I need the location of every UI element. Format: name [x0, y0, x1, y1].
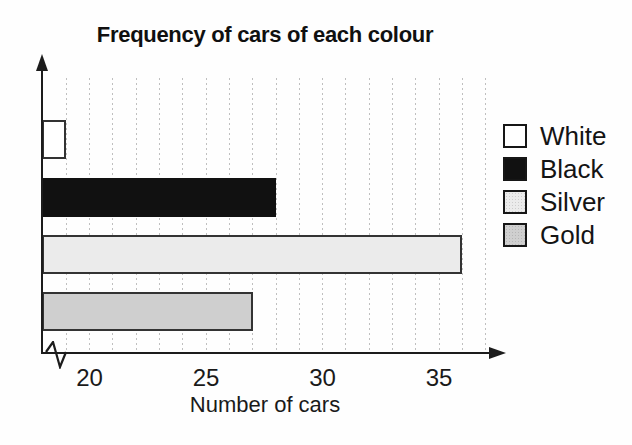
legend-swatch-silver [503, 190, 527, 214]
gridline-34 [415, 78, 416, 352]
gridline-31 [345, 78, 346, 352]
legend-item-gold: Gold [503, 223, 606, 247]
axis-break-icon [45, 341, 69, 369]
legend-swatch-gold [503, 223, 527, 247]
x-tick-25: 25 [193, 364, 220, 392]
bar-black [42, 178, 276, 217]
x-axis-label: Number of cars [43, 392, 487, 418]
legend-swatch-white [503, 124, 527, 148]
x-tick-30: 30 [309, 364, 336, 392]
legend-label-black: Black [540, 157, 604, 181]
bar-white [42, 120, 66, 159]
legend-item-black: Black [503, 157, 606, 181]
x-tick-20: 20 [76, 364, 103, 392]
x-axis-arrow-icon [489, 347, 506, 359]
chart-title: Frequency of cars of each colour [43, 22, 487, 48]
y-axis [41, 68, 43, 354]
legend-label-white: White [540, 124, 606, 148]
gridline-29 [299, 78, 300, 352]
gridline-36 [462, 78, 463, 352]
legend-item-silver: Silver [503, 190, 606, 214]
y-axis-arrow-icon [36, 54, 48, 71]
gridline-32 [369, 78, 370, 352]
gridline-33 [392, 78, 393, 352]
gridline-35 [439, 78, 440, 352]
bar-gold [42, 292, 253, 331]
legend-label-gold: Gold [540, 223, 595, 247]
x-axis [41, 352, 493, 354]
x-tick-35: 35 [426, 364, 453, 392]
gridline-37 [485, 78, 486, 352]
legend-swatch-black [503, 157, 527, 181]
legend-label-silver: Silver [540, 190, 605, 214]
bar-chart: Frequency of cars of each colour 2025303… [0, 0, 632, 445]
gridline-30 [322, 78, 323, 352]
legend-item-white: White [503, 124, 606, 148]
bar-silver [42, 235, 462, 274]
legend: WhiteBlackSilverGold [503, 124, 606, 247]
